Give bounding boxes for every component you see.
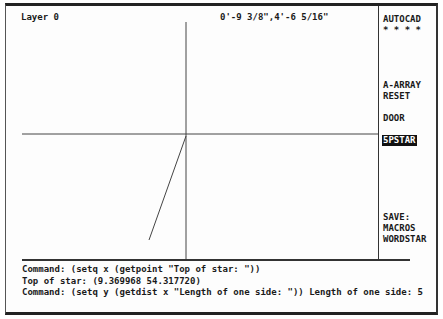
menu-item-5pstar[interactable]: 5PSTAR: [382, 135, 417, 146]
sidebar-divider: [378, 6, 379, 260]
menu-item-reset[interactable]: RESET: [382, 91, 411, 102]
menu-item-door[interactable]: DOOR: [382, 113, 406, 124]
star-side-line: [149, 136, 186, 240]
menu-item-stars[interactable]: * * * *: [382, 25, 422, 36]
cursor-coordinates: 0'-9 3/8",4'-6 5/16": [220, 12, 328, 22]
menu-item-save[interactable]: SAVE:: [382, 212, 411, 223]
menu-item-autocad[interactable]: AUTOCAD: [382, 14, 422, 25]
command-separator: [22, 259, 410, 261]
menu-item-wordstar[interactable]: WORDSTAR: [382, 234, 427, 245]
command-line: Command: (setq x (getpoint "Top of star:…: [22, 264, 423, 276]
current-layer: Layer 0: [21, 12, 59, 22]
menu-item-macros[interactable]: MACROS: [382, 223, 417, 234]
command-line: Command: (setq y (getdist x "Length of o…: [22, 287, 423, 299]
menu-item-a-array[interactable]: A-ARRAY: [382, 80, 422, 91]
command-prompt-area[interactable]: Command: (setq x (getpoint "Top of star:…: [22, 264, 423, 299]
command-line: Top of star: (9.369968 54.317720): [22, 276, 423, 288]
